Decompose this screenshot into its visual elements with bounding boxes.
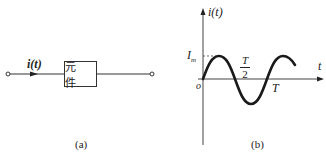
circuit-element: 元 件 [64,61,97,87]
current-label: i(t) [27,58,42,70]
amplitude-label: Im [187,49,196,64]
y-axis-label: i(t) [208,6,223,18]
y-axis-arrow-icon [201,8,206,15]
half-period-numerator: T [240,55,250,66]
right-terminal [150,72,154,76]
left-terminal [6,72,10,76]
axes-b [198,12,322,145]
current-arrow-icon [30,72,38,77]
diagram-canvas [0,0,326,156]
half-period-label: T 2 [240,55,250,80]
x-axis-arrow-icon [317,77,324,82]
x-axis-label: t [318,60,321,72]
caption-b: (b) [251,138,264,150]
half-period-denominator: 2 [240,69,250,80]
element-label: 元 件 [65,58,96,90]
caption-a: (a) [75,138,87,150]
period-label: T [272,82,279,94]
origin-label: o [196,81,201,91]
